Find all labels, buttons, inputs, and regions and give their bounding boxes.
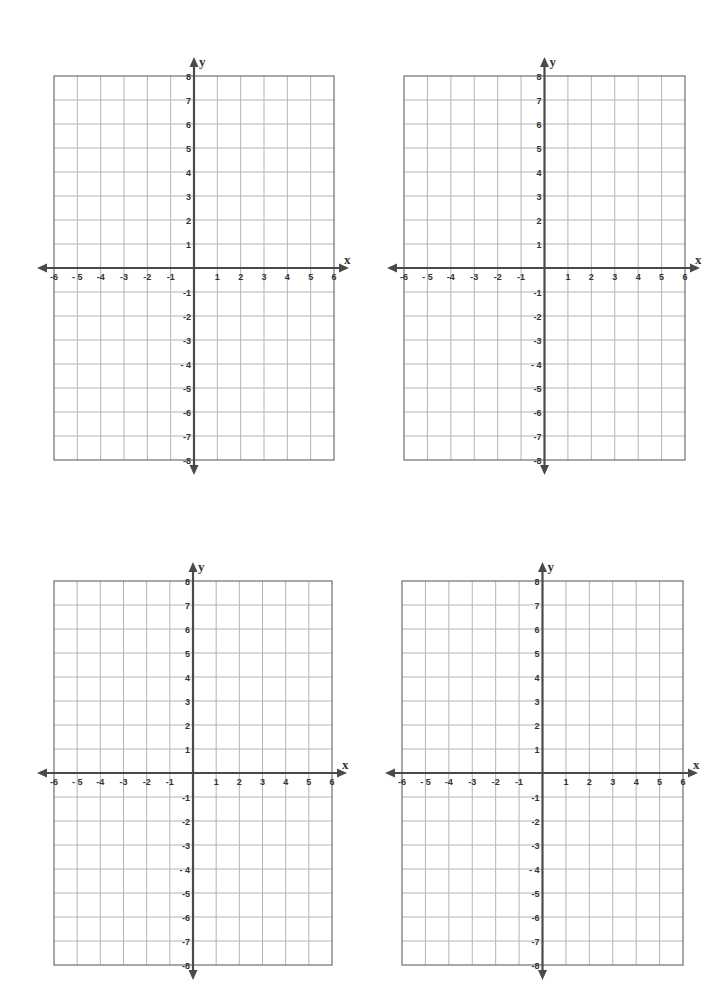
y-tick-label: 4 — [536, 168, 541, 178]
x-tick-label: 3 — [260, 777, 265, 787]
y-tick-label: 5 — [186, 144, 191, 154]
y-axis-label: y — [198, 559, 205, 574]
y-tick-label: -8 — [183, 456, 191, 466]
x-axis-label: x — [344, 252, 351, 267]
y-tick-label: 2 — [186, 216, 191, 226]
x-tick-label: 6 — [680, 777, 685, 787]
x-tick-label: 1 — [215, 272, 220, 282]
x-tick-label: 6 — [329, 777, 334, 787]
y-tick-label: 3 — [186, 192, 191, 202]
x-tick-label: - 5 — [420, 777, 431, 787]
y-tick-label: 6 — [534, 625, 539, 635]
y-tick-label: -6 — [533, 408, 541, 418]
x-tick-label: 4 — [285, 272, 290, 282]
y-tick-label: 6 — [536, 120, 541, 130]
x-tick-label: -6 — [398, 777, 406, 787]
y-tick-label: 8 — [534, 577, 539, 587]
y-tick-label: -1 — [531, 793, 539, 803]
y-tick-label: 8 — [536, 72, 541, 82]
y-tick-label: 8 — [185, 577, 190, 587]
plane-top-left: xy-6- 5-4-3-2-112345687654321-1-2-3- 4-5… — [30, 52, 358, 484]
y-tick-label: -2 — [182, 817, 190, 827]
arrow-down-icon — [540, 465, 549, 475]
x-tick-label: 2 — [238, 272, 243, 282]
arrow-up-icon — [538, 562, 547, 572]
y-tick-label: -3 — [531, 841, 539, 851]
y-tick-label: 4 — [534, 673, 539, 683]
arrow-up-icon — [190, 57, 199, 67]
y-tick-label: 3 — [534, 697, 539, 707]
x-tick-label: - 5 — [72, 272, 83, 282]
y-tick-label: 6 — [186, 120, 191, 130]
y-tick-label: -5 — [533, 384, 541, 394]
y-tick-label: 8 — [186, 72, 191, 82]
x-tick-label: 3 — [610, 777, 615, 787]
y-axis-label: y — [550, 54, 557, 69]
x-tick-label: 5 — [657, 777, 662, 787]
y-tick-label: 7 — [186, 96, 191, 106]
x-axis-label: x — [693, 757, 700, 772]
arrow-up-icon — [540, 57, 549, 67]
arrow-up-icon — [189, 562, 198, 572]
x-tick-label: -3 — [468, 777, 476, 787]
x-tick-label: -1 — [515, 777, 523, 787]
y-axis-label: y — [199, 54, 206, 69]
y-tick-label: -2 — [183, 312, 191, 322]
x-tick-label: -2 — [143, 272, 151, 282]
y-tick-label: 5 — [536, 144, 541, 154]
x-tick-label: -4 — [96, 777, 104, 787]
plane-top-right: xy-6- 5-4-3-2-112345687654321-1-2-3- 4-5… — [380, 52, 709, 484]
x-tick-label: 2 — [589, 272, 594, 282]
y-tick-label: 7 — [536, 96, 541, 106]
x-axis-label: x — [695, 252, 702, 267]
plane-bottom-left: xy-6- 5-4-3-2-112345687654321-1-2-3- 4-5… — [30, 557, 356, 989]
y-tick-label: -6 — [531, 913, 539, 923]
x-axis-label: x — [342, 757, 349, 772]
x-tick-label: -6 — [400, 272, 408, 282]
coordinate-plane: xy-6- 5-4-3-2-112345687654321-1-2-3- 4-5… — [30, 557, 356, 989]
x-tick-label: 4 — [283, 777, 288, 787]
x-tick-label: 5 — [306, 777, 311, 787]
y-tick-label: -1 — [182, 793, 190, 803]
x-tick-label: 5 — [659, 272, 664, 282]
y-tick-label: -5 — [182, 889, 190, 899]
x-tick-label: -2 — [492, 777, 500, 787]
arrow-left-icon — [37, 264, 47, 273]
x-tick-label: -4 — [445, 777, 453, 787]
y-axis-label: y — [548, 559, 555, 574]
x-tick-label: -1 — [167, 272, 175, 282]
arrow-left-icon — [37, 769, 47, 778]
y-tick-label: -3 — [182, 841, 190, 851]
x-tick-label: -2 — [143, 777, 151, 787]
x-tick-label: 4 — [636, 272, 641, 282]
x-tick-label: -3 — [120, 272, 128, 282]
y-tick-label: 4 — [185, 673, 190, 683]
x-tick-label: 1 — [214, 777, 219, 787]
y-tick-label: 2 — [534, 721, 539, 731]
coordinate-plane: xy-6- 5-4-3-2-112345687654321-1-2-3- 4-5… — [30, 52, 358, 484]
y-tick-label: -7 — [533, 432, 541, 442]
y-tick-label: -1 — [183, 288, 191, 298]
x-tick-label: -4 — [447, 272, 455, 282]
y-tick-label: 1 — [536, 240, 541, 250]
y-tick-label: 2 — [185, 721, 190, 731]
x-tick-label: -6 — [50, 272, 58, 282]
coordinate-plane: xy-6- 5-4-3-2-112345687654321-1-2-3- 4-5… — [378, 557, 707, 989]
x-tick-label: 2 — [587, 777, 592, 787]
y-tick-label: 7 — [185, 601, 190, 611]
y-tick-label: 7 — [534, 601, 539, 611]
y-tick-label: -6 — [183, 408, 191, 418]
y-tick-label: -8 — [531, 961, 539, 971]
y-tick-label: -7 — [183, 432, 191, 442]
y-tick-label: 3 — [185, 697, 190, 707]
y-tick-label: - 4 — [531, 360, 542, 370]
arrow-left-icon — [387, 264, 397, 273]
y-tick-label: - 4 — [180, 360, 191, 370]
x-tick-label: -3 — [470, 272, 478, 282]
y-tick-label: 2 — [536, 216, 541, 226]
plane-bottom-right: xy-6- 5-4-3-2-112345687654321-1-2-3- 4-5… — [378, 557, 707, 989]
y-tick-label: -2 — [533, 312, 541, 322]
y-tick-label: -8 — [533, 456, 541, 466]
y-tick-label: 1 — [185, 745, 190, 755]
arrow-left-icon — [385, 769, 395, 778]
